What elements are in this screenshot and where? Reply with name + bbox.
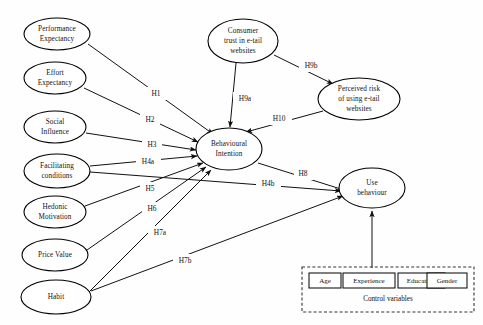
label-consumer-trust-line1: Consumer xyxy=(228,27,259,35)
label-effort-expectancy-line1: Effort xyxy=(46,69,64,77)
node-use-behaviour[interactable]: Use behaviour xyxy=(339,168,405,208)
node-social-influence[interactable]: Social Influence xyxy=(24,111,86,143)
label-consumer-trust-line2: trust in e-tail xyxy=(224,37,262,45)
label-perceived-risk-line1: Perceived risk xyxy=(338,85,381,93)
label-performance-expectancy-line2: Expectancy xyxy=(40,35,75,43)
label-use-behaviour-line1: Use xyxy=(366,179,377,187)
node-hedonic-motivation[interactable]: Hedonic Motivation xyxy=(24,196,86,228)
control-variable-label-gender: Gender xyxy=(437,277,458,285)
label-facilitating-conditions-line1: Facilitating xyxy=(40,162,74,170)
hypothesis-label-h7b: H7b xyxy=(179,256,192,265)
hypothesis-label-h1: H1 xyxy=(151,89,160,98)
control-variable-label-experience: Experience xyxy=(353,277,384,285)
control-variable-label-age: Age xyxy=(319,277,331,285)
label-hedonic-motivation-line2: Motivation xyxy=(39,213,72,221)
node-habit[interactable]: Habit xyxy=(21,280,91,314)
node-facilitating-conditions[interactable]: Facilitating conditions xyxy=(24,154,90,188)
label-social-influence-line2: Influence xyxy=(41,128,69,136)
label-use-behaviour-line2: behaviour xyxy=(357,189,387,197)
hypothesis-label-h9b: H9b xyxy=(305,61,318,70)
label-facilitating-conditions-line2: conditions xyxy=(42,172,73,180)
path-h7b xyxy=(91,196,343,291)
label-habit-line1: Habit xyxy=(48,293,64,301)
node-effort-expectancy[interactable]: Effort Expectancy xyxy=(24,62,86,94)
node-performance-expectancy[interactable]: Performance Expectancy xyxy=(24,18,90,50)
hypothesis-label-h4a: H4a xyxy=(142,157,155,166)
node-perceived-risk[interactable]: Perceived risk of using e-tail websites xyxy=(318,78,400,120)
hypothesis-label-h3: H3 xyxy=(147,140,156,149)
control-variables-panel: Age Experience Education Gender Control … xyxy=(302,267,474,312)
node-price-value[interactable]: Price Value xyxy=(22,239,88,271)
label-perceived-risk-line3: websites xyxy=(346,105,372,113)
model-canvas: H1 H2 H3 H4a H4b H5 H6 H7a H7b H8 H9a H9… xyxy=(0,0,483,325)
path-h3 xyxy=(86,133,196,150)
hypothesis-label-h5: H5 xyxy=(145,184,154,193)
hypothesis-label-h2: H2 xyxy=(145,115,154,124)
node-behavioural-intention[interactable]: Behavioural Intention xyxy=(196,128,262,170)
label-effort-expectancy-line2: Expectancy xyxy=(38,79,73,87)
hypothesis-label-h9a: H9a xyxy=(239,94,252,103)
control-variables-caption: Control variables xyxy=(363,295,413,303)
hypothesis-label-h4b: H4b xyxy=(262,179,275,188)
label-consumer-trust-line3: websites xyxy=(230,47,256,55)
label-hedonic-motivation-line1: Hedonic xyxy=(42,203,67,211)
research-model-diagram: H1 H2 H3 H4a H4b H5 H6 H7a H7b H8 H9a H9… xyxy=(0,0,483,325)
label-price-value-line1: Price Value xyxy=(38,251,72,259)
hypothesis-label-h6: H6 xyxy=(147,204,156,213)
label-perceived-risk-line2: of using e-tail xyxy=(338,95,379,103)
node-consumer-trust[interactable]: Consumer trust in e-tail websites xyxy=(208,19,278,63)
label-behavioural-intention-line2: Intention xyxy=(216,150,243,158)
hypothesis-label-h7a: H7a xyxy=(154,228,167,237)
hypothesis-label-h10: H10 xyxy=(273,114,286,123)
label-behavioural-intention-line1: Behavioural xyxy=(211,140,247,148)
label-performance-expectancy-line1: Performance xyxy=(38,25,76,33)
label-social-influence-line1: Social xyxy=(46,118,65,126)
hypothesis-label-h8: H8 xyxy=(298,169,307,178)
